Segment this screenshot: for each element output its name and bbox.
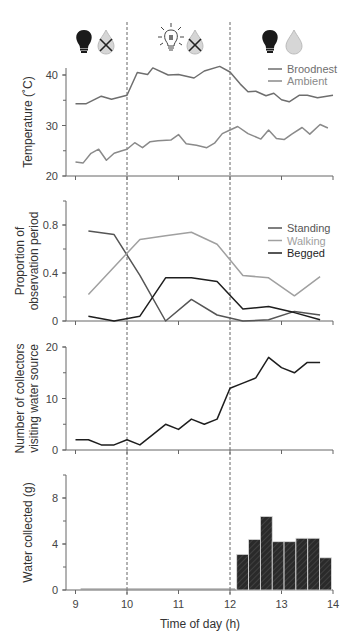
y-tick-label: 0	[52, 584, 58, 596]
water-bar	[260, 516, 272, 590]
x-tick-label: 9	[72, 598, 78, 610]
panel-2: 00.40.8Proportion ofobservation periodSt…	[13, 201, 333, 327]
y-tick-label: 20	[46, 341, 58, 353]
y-tick-label: 0	[52, 315, 58, 327]
legend-label: Begged	[287, 247, 325, 259]
water-bar	[308, 538, 320, 590]
water-bar	[284, 542, 296, 590]
lit-bulb-icon	[158, 23, 184, 50]
water-bar	[249, 539, 261, 590]
legend-label: Ambient	[287, 75, 327, 87]
panel-3: 01020Number of collectorsvisiting water …	[13, 341, 333, 456]
y-axis-title: Temperature (˚C)	[21, 76, 35, 167]
y-axis-title: observation period	[27, 212, 41, 311]
x-tick-label: 10	[121, 598, 133, 610]
y-tick-label: 40	[46, 69, 58, 81]
y-tick-label: 20	[46, 170, 58, 182]
y-tick-label: 10	[46, 393, 58, 405]
y-tick-label: 0.4	[43, 267, 58, 279]
dark-bulb-icon	[76, 30, 91, 53]
water-bar	[272, 542, 284, 590]
dark-bulb-icon	[262, 30, 277, 53]
water-drop-crossed-icon	[98, 30, 114, 54]
water-bar	[320, 558, 332, 590]
water-drop-crossed-icon	[187, 30, 203, 54]
panels: 203040Temperature (˚C)BroodnestAmbient00…	[13, 63, 339, 631]
y-tick-label: 30	[46, 120, 58, 132]
y-axis-title: Number of collectors	[13, 343, 27, 453]
y-tick-label: 8	[52, 492, 58, 504]
x-tick-label: 13	[275, 598, 287, 610]
y-axis-title: Water collected (g)	[21, 482, 35, 582]
series-line-standing	[88, 231, 320, 321]
series-line-walking	[88, 232, 320, 296]
figure: 203040Temperature (˚C)BroodnestAmbient00…	[0, 0, 354, 644]
y-tick-label: 0.8	[43, 219, 58, 231]
water-bar	[296, 538, 308, 590]
x-tick-label: 14	[327, 598, 339, 610]
x-axis-title: Time of day (h)	[160, 617, 240, 631]
series-line-ambient	[76, 125, 328, 163]
legend-label: Broodnest	[287, 63, 337, 75]
legend-label: Walking	[287, 235, 326, 247]
y-tick-label: 4	[52, 538, 58, 550]
x-tick-label: 12	[224, 598, 236, 610]
panel-1: 203040Temperature (˚C)BroodnestAmbient	[21, 63, 337, 182]
y-axis-title: Proportion of	[13, 226, 27, 295]
legend: BroodnestAmbient	[268, 63, 337, 87]
water-bar	[237, 554, 249, 590]
legend-label: Standing	[287, 222, 330, 234]
water-drop-icon	[286, 30, 302, 54]
legend: StandingWalkingBegged	[268, 222, 330, 259]
y-axis-title: visiting water source	[27, 344, 41, 453]
x-tick-label: 11	[173, 598, 184, 610]
y-tick-label: 0	[52, 444, 58, 456]
series-line-collectors	[76, 357, 321, 445]
period-icons	[76, 23, 302, 54]
panel-4: 048Water collected (g)91011121314Time of…	[21, 475, 339, 631]
